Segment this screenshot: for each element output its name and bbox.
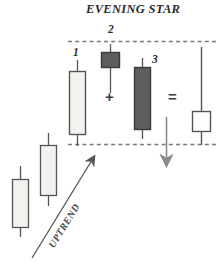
pattern-candle-2 xyxy=(102,44,120,93)
pattern-candle-1 xyxy=(70,60,86,146)
candlestick-canvas xyxy=(0,0,224,279)
uptrend-candle-1 xyxy=(13,166,29,237)
candle-2-index-label: 2 xyxy=(108,24,114,36)
result-candle-body xyxy=(193,112,211,132)
plus-operator: + xyxy=(105,89,114,104)
pattern-candle-3-body xyxy=(135,68,151,130)
figure-title: EVENING STAR xyxy=(86,3,180,16)
pattern-candle-1-body xyxy=(70,72,86,135)
pattern-candle-3 xyxy=(135,58,151,139)
pattern-candle-2-body xyxy=(102,53,120,68)
uptrend-candle-2 xyxy=(41,133,57,206)
uptrend-candle-1-body xyxy=(13,180,29,228)
uptrend-candle-2-body xyxy=(41,146,57,196)
candle-3-index-label: 3 xyxy=(152,54,158,66)
evening-star-figure: EVENING STAR 2 1 3 + = UPTREND xyxy=(0,0,224,279)
equals-operator: = xyxy=(168,89,177,104)
candle-1-index-label: 1 xyxy=(73,47,79,59)
result-candle xyxy=(193,47,211,145)
